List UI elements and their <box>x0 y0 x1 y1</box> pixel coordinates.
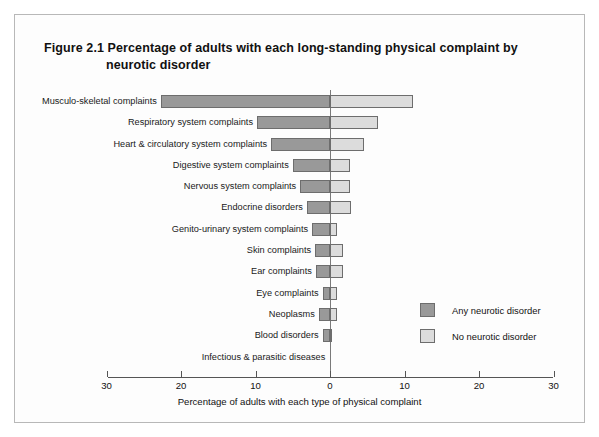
x-axis-tick <box>479 371 480 377</box>
bar-no-neurotic-disorder <box>330 138 364 151</box>
bar-any-neurotic-disorder <box>319 308 330 321</box>
bar-row: Heart & circulatory system complaints <box>0 136 599 157</box>
x-axis-tick-label: 20 <box>474 380 485 391</box>
x-axis-title: Percentage of adults with each type of p… <box>0 396 599 407</box>
x-axis-tick-label: 10 <box>250 380 261 391</box>
bar-any-neurotic-disorder <box>300 180 330 193</box>
legend-swatch-icon-no <box>420 329 435 343</box>
x-axis-tick-label: 30 <box>548 380 559 391</box>
bar-row-label: Eye complaints <box>0 288 319 298</box>
bar-row-label: Endocrine disorders <box>0 202 303 212</box>
x-axis-tick-label: 10 <box>399 380 410 391</box>
bar-row-label: Digestive system complaints <box>0 160 289 170</box>
bar-row: Skin complaints <box>0 242 599 263</box>
bar-any-neurotic-disorder <box>257 116 330 129</box>
bar-row-label: Genito-urinary system complaints <box>0 224 308 234</box>
legend-item-no-neurotic-disorder: No neurotic disorder <box>420 329 541 343</box>
bar-no-neurotic-disorder <box>330 244 343 257</box>
bar-row-label: Ear complaints <box>0 266 312 276</box>
bar-row-label: Musculo-skeletal complaints <box>0 96 157 106</box>
bar-any-neurotic-disorder <box>293 159 330 172</box>
bar-no-neurotic-disorder <box>330 180 350 193</box>
bar-row: Ear complaints <box>0 263 599 284</box>
bar-row: Genito-urinary system complaints <box>0 221 599 242</box>
bar-row: Digestive system complaints <box>0 157 599 178</box>
bar-row: Endocrine disorders <box>0 199 599 220</box>
x-axis-tick-label: 20 <box>176 380 187 391</box>
legend-label-no: No neurotic disorder <box>452 331 536 342</box>
x-axis-tick <box>181 371 182 377</box>
x-axis-tick <box>554 371 555 377</box>
x-axis-tick <box>405 371 406 377</box>
plot-area: Musculo-skeletal complaintsRespiratory s… <box>0 0 599 437</box>
bar-no-neurotic-disorder <box>330 265 343 278</box>
bar-no-neurotic-disorder <box>330 329 332 342</box>
figure-root: Figure 2.1 Percentage of adults with eac… <box>0 0 599 437</box>
bar-row-label: Respiratory system complaints <box>0 117 253 127</box>
bar-no-neurotic-disorder <box>330 308 337 321</box>
bar-row-label: Skin complaints <box>0 245 311 255</box>
bar-no-neurotic-disorder <box>330 95 413 108</box>
legend-item-any-neurotic-disorder: Any neurotic disorder <box>420 303 541 317</box>
legend-swatch-icon-any <box>420 303 435 317</box>
bar-row-label: Infectious & parasitic diseases <box>0 352 325 362</box>
bar-any-neurotic-disorder <box>316 265 330 278</box>
bar-no-neurotic-disorder <box>330 159 350 172</box>
legend-label-any: Any neurotic disorder <box>452 305 541 316</box>
bar-any-neurotic-disorder <box>323 329 330 342</box>
x-axis-tick-label: 30 <box>101 380 112 391</box>
bar-any-neurotic-disorder <box>271 138 330 151</box>
bar-row-label: Neoplasms <box>0 309 315 319</box>
bar-row-label: Heart & circulatory system complaints <box>0 139 267 149</box>
bar-no-neurotic-disorder <box>330 116 378 129</box>
x-axis-tick <box>256 371 257 377</box>
bar-any-neurotic-disorder <box>315 244 330 257</box>
x-axis-tick-label: 0 <box>327 380 332 391</box>
chart-legend: Any neurotic disorder No neurotic disord… <box>420 303 541 355</box>
bar-row: Respiratory system complaints <box>0 114 599 135</box>
x-axis-tick <box>330 371 331 377</box>
bar-row-label: Blood disorders <box>0 330 319 340</box>
bar-no-neurotic-disorder <box>330 201 351 214</box>
x-axis-tick <box>107 371 108 377</box>
bar-no-neurotic-disorder <box>330 223 337 236</box>
x-axis-line <box>108 377 553 378</box>
bar-row: Musculo-skeletal complaints <box>0 93 599 114</box>
bar-row: Nervous system complaints <box>0 178 599 199</box>
bar-any-neurotic-disorder <box>323 287 330 300</box>
bar-any-neurotic-disorder <box>161 95 330 108</box>
bar-row-label: Nervous system complaints <box>0 181 296 191</box>
bar-no-neurotic-disorder <box>330 287 337 300</box>
bar-any-neurotic-disorder <box>307 201 330 214</box>
bar-any-neurotic-disorder <box>312 223 330 236</box>
